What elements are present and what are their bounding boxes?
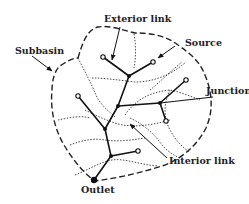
junction-node	[127, 74, 131, 78]
source-nodes	[76, 55, 188, 153]
junction-leader	[160, 97, 213, 103]
stream-network-diagram: Subbasin Exterior link Source Junction I…	[0, 0, 249, 204]
junction-node	[109, 154, 113, 158]
source-node	[136, 149, 140, 153]
source-node	[76, 94, 80, 98]
interior-link-label: Interior link	[169, 155, 235, 166]
junction-label: Junction	[205, 85, 249, 96]
exterior-link-leader	[112, 27, 120, 60]
source-node	[184, 78, 188, 82]
interior-link-leader	[130, 124, 167, 158]
source-leader	[158, 46, 175, 58]
subbasin-label: Subbasin	[15, 45, 64, 56]
junction-node	[103, 127, 107, 131]
junction-node	[116, 104, 120, 108]
outlet-node	[91, 177, 97, 183]
source-node	[164, 119, 168, 123]
subbasin-leader	[32, 56, 52, 71]
source-label: Source	[185, 37, 222, 48]
source-node	[101, 55, 105, 59]
junction-nodes	[91, 74, 162, 183]
outlet-label: Outlet	[81, 184, 115, 195]
exterior-link-label: Exterior link	[104, 13, 172, 24]
source-node	[151, 60, 155, 64]
